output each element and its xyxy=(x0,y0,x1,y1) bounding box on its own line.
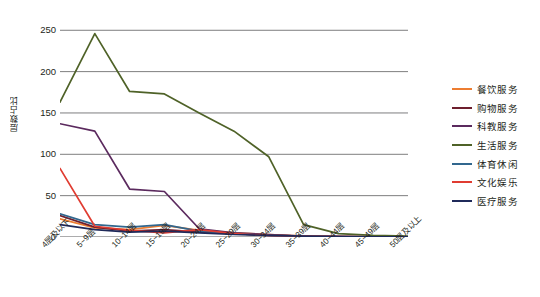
legend-item[interactable]: 体育休闲 xyxy=(452,154,538,173)
plot-area xyxy=(60,22,408,237)
series-lines xyxy=(60,34,408,237)
legend-item[interactable]: 文化娱乐 xyxy=(452,173,538,192)
legend-label: 餐饮服务 xyxy=(477,82,518,96)
y-tick-label: 0 xyxy=(22,232,56,241)
y-tick-label: 200 xyxy=(22,67,56,76)
legend-color-swatch xyxy=(452,125,472,127)
legend-color-swatch xyxy=(452,163,472,165)
legend-label: 科教服务 xyxy=(477,119,518,133)
legend-color-swatch xyxy=(452,107,472,109)
series-line xyxy=(60,124,408,237)
legend-color-swatch xyxy=(452,88,472,90)
line-chart: 层数占比 050100150200250 4层及以下5~9层10~14层15~1… xyxy=(0,0,540,297)
legend-label: 医疗服务 xyxy=(477,194,518,208)
y-tick-label: 50 xyxy=(22,191,56,200)
series-line xyxy=(60,34,408,237)
y-tick-label: 150 xyxy=(22,108,56,117)
legend-color-swatch xyxy=(452,181,472,183)
legend-label: 生活服务 xyxy=(477,138,518,152)
legend-item[interactable]: 餐饮服务 xyxy=(452,80,538,99)
legend-label: 体育休闲 xyxy=(477,157,518,171)
legend-item[interactable]: 科教服务 xyxy=(452,117,538,136)
legend-color-swatch xyxy=(452,144,472,146)
legend-label: 文化娱乐 xyxy=(477,175,518,189)
legend-item[interactable]: 医疗服务 xyxy=(452,192,538,211)
y-tick-label: 100 xyxy=(22,149,56,158)
legend-item[interactable]: 购物服务 xyxy=(452,99,538,118)
y-axis-tick-labels: 050100150200250 xyxy=(22,0,56,297)
legend-item[interactable]: 生活服务 xyxy=(452,136,538,155)
legend: 餐饮服务购物服务科教服务生活服务体育休闲文化娱乐医疗服务 xyxy=(452,80,538,210)
y-tick-label: 250 xyxy=(22,25,56,34)
legend-label: 购物服务 xyxy=(477,101,518,115)
legend-color-swatch xyxy=(452,200,472,202)
